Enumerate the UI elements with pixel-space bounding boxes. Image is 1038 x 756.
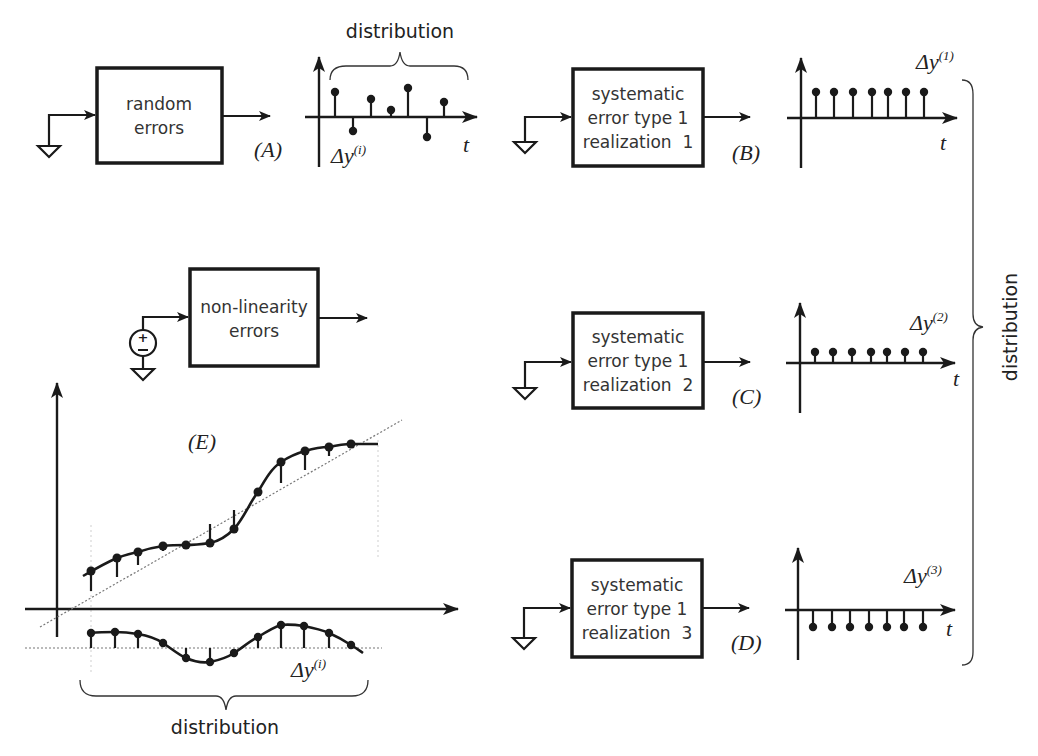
- brace-icon: [80, 680, 368, 710]
- block-c-systematic-2: systematic error type 1 realization 2 (C…: [514, 313, 761, 409]
- stem-series: [811, 348, 927, 363]
- transfer-curve: [83, 444, 378, 576]
- t-axis-label-c: t: [953, 366, 960, 391]
- delta-y-label-2: Δy(2): [909, 309, 948, 335]
- error-stems: [91, 447, 329, 591]
- block-e-label: (E): [188, 429, 216, 454]
- t-axis-label-d: t: [946, 616, 953, 641]
- block-a-label: (A): [254, 137, 282, 162]
- chart-a-random-stems: distribution Δy(i) t: [305, 20, 477, 168]
- block-d-systematic-3: systematic error type 1 realization 3 (D…: [513, 560, 762, 657]
- brace-icon: [330, 52, 468, 80]
- chart-c-constant-small-positive: Δy(2) t: [786, 303, 960, 413]
- svg-text:+: +: [138, 330, 149, 345]
- distribution-label-bottom: distribution: [171, 716, 279, 738]
- distribution-label-top: distribution: [346, 20, 454, 42]
- block-c-line-1: systematic: [592, 327, 685, 347]
- ideal-linear-line: [40, 420, 402, 627]
- block-a-random-errors: random errors (A): [38, 68, 282, 163]
- non-linearity-box: [190, 269, 318, 366]
- stem-series: [812, 88, 928, 118]
- block-e-line-1: non-linearity: [200, 297, 308, 317]
- error-types-diagram: random errors (A) distribution Δy(i) t s…: [0, 0, 1038, 756]
- block-e-line-2: errors: [229, 321, 279, 341]
- block-e-non-linearity: + non-linearity errors: [130, 269, 367, 380]
- ground-icon: [38, 115, 95, 157]
- block-a-line-1: random: [126, 94, 192, 114]
- distribution-label-right: distribution: [999, 273, 1021, 381]
- block-b-systematic-1: systematic error type 1 realization 1 (B…: [514, 69, 760, 166]
- block-a-line-2: errors: [134, 118, 184, 138]
- delta-y-label-e: Δy(i): [290, 656, 326, 682]
- delta-y-label-a: Δy(i): [330, 142, 366, 168]
- block-b-line-2: error type 1: [588, 108, 689, 128]
- ground-icon: [514, 117, 571, 153]
- block-c-label: (C): [732, 384, 761, 409]
- block-c-line-3: realization 2: [583, 375, 693, 395]
- ground-icon: [132, 369, 154, 380]
- t-axis-label-a: t: [463, 132, 470, 157]
- block-b-line-1: systematic: [592, 84, 685, 104]
- chart-b-constant-positive: Δy(1) t: [787, 48, 957, 168]
- ground-icon: [514, 362, 571, 399]
- block-c-line-2: error type 1: [588, 351, 689, 371]
- voltage-source-icon: +: [130, 317, 188, 369]
- ground-icon: [513, 608, 570, 649]
- random-errors-box: [97, 68, 222, 163]
- block-b-label: (B): [732, 140, 760, 165]
- stem-series: [331, 84, 448, 141]
- block-b-line-3: realization 1: [583, 132, 693, 152]
- block-d-line-3: realization 3: [582, 623, 692, 643]
- block-d-label: (D): [731, 630, 762, 655]
- t-axis-label-b: t: [940, 130, 947, 155]
- right-distribution-brace: distribution: [962, 80, 1021, 665]
- delta-y-label-1: Δy(1): [915, 48, 954, 74]
- brace-icon: [962, 80, 983, 665]
- block-d-line-2: error type 1: [587, 599, 688, 619]
- delta-y-label-3: Δy(3): [903, 562, 942, 588]
- chart-e-non-linearity: (E) Δy(i) distribution: [25, 383, 458, 738]
- stem-series: [809, 610, 927, 631]
- chart-d-constant-negative: Δy(3) t: [785, 548, 955, 660]
- block-d-line-1: systematic: [591, 575, 684, 595]
